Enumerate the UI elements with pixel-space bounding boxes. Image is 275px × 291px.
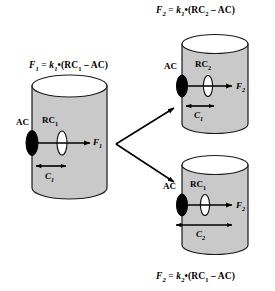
label-force-top-right: F2 [236, 81, 245, 93]
label-force-bottom-right: F2 [236, 200, 245, 212]
cylinder-top-right-top-ellipse [182, 35, 248, 54]
connector-branch-down [116, 144, 174, 182]
label-force-left: F1 [93, 137, 102, 149]
connector-branch-up [116, 108, 174, 144]
label-rc-left: RC1 [42, 115, 58, 127]
label-ac-left: AC [16, 117, 29, 127]
formula-top-right: F2 = k1•(RC2 – AC) [156, 5, 235, 17]
label-distance-left: C1 [45, 171, 54, 183]
label-ac-top-right: AC [164, 61, 177, 71]
label-ac-bottom-right: AC [163, 181, 176, 191]
cylinder-bottom-right-top-ellipse [182, 156, 248, 175]
label-distance-top-right: C1 [194, 110, 203, 122]
label-rc-bottom-right: RC1 [190, 179, 206, 191]
formula-bottom-right: F2 = k2•(RC1 – AC) [156, 271, 235, 283]
diagram-canvas [0, 0, 275, 291]
label-rc-top-right: RC2 [195, 59, 211, 71]
label-distance-bottom-right: C2 [196, 229, 205, 241]
branching-connector [116, 108, 174, 182]
cylinder-left-top-ellipse [32, 75, 107, 97]
formula-left: F1 = k1•(RC1 – AC) [29, 60, 108, 72]
